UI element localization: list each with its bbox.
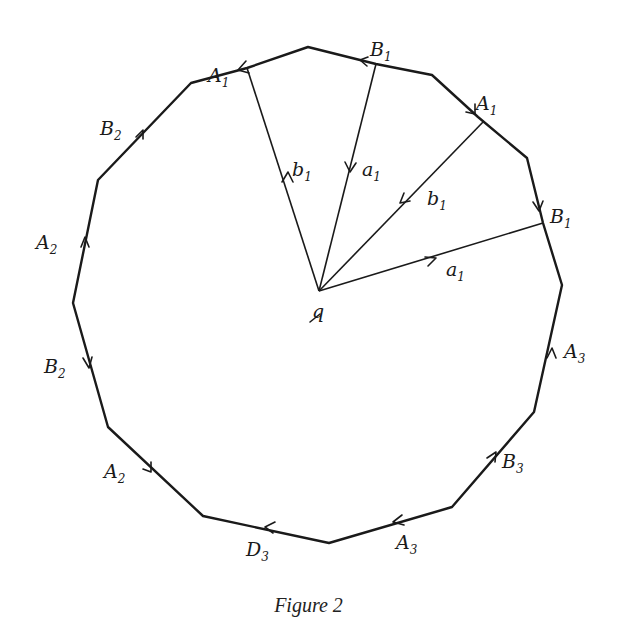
svg-text:A3: A3 bbox=[394, 531, 418, 557]
svg-text:B1: B1 bbox=[369, 38, 392, 64]
svg-text:B1: B1 bbox=[549, 205, 572, 231]
edge-label-A3-bottom: A3 bbox=[394, 531, 418, 557]
svg-text:A2: A2 bbox=[102, 460, 125, 486]
ray-label-a1-right: a1 bbox=[446, 258, 465, 284]
edge-label-B3: B3 bbox=[501, 450, 524, 476]
ray-label-b1-left: b1 bbox=[292, 158, 312, 184]
ray-label-a1-top: a1 bbox=[362, 158, 381, 184]
edge-label-D3: D3 bbox=[245, 538, 269, 564]
svg-text:B3: B3 bbox=[501, 450, 524, 476]
figure-caption: Figure 2 bbox=[0, 594, 617, 617]
svg-text:A3: A3 bbox=[562, 340, 586, 366]
svg-text:A1: A1 bbox=[474, 92, 497, 118]
edge-label-B1-right: B1 bbox=[549, 205, 572, 231]
svg-text:A1: A1 bbox=[206, 64, 229, 90]
svg-text:B2: B2 bbox=[43, 355, 66, 381]
svg-text:B2: B2 bbox=[99, 117, 122, 143]
edge-label-B2-upper: B2 bbox=[99, 117, 122, 143]
polygon-boundary bbox=[73, 47, 562, 543]
edge-label-A1-topleft: A1 bbox=[206, 64, 229, 90]
edge-label-A2-upper: A2 bbox=[34, 231, 57, 257]
edge-label-A3-right: A3 bbox=[562, 340, 586, 366]
svg-text:a1: a1 bbox=[362, 158, 381, 184]
ray-label-b1-right: b1 bbox=[427, 187, 447, 213]
svg-text:D3: D3 bbox=[245, 538, 269, 564]
svg-text:a1: a1 bbox=[446, 258, 465, 284]
edge-label-A2-lower: A2 bbox=[102, 460, 125, 486]
edge-label-B1-top: B1 bbox=[369, 38, 392, 64]
svg-text:b1: b1 bbox=[427, 187, 447, 213]
svg-text:b1: b1 bbox=[292, 158, 312, 184]
svg-text:A2: A2 bbox=[34, 231, 57, 257]
edge-label-A1-right: A1 bbox=[474, 92, 497, 118]
edge-label-B2-lower: B2 bbox=[43, 355, 66, 381]
diagram-canvas: A1 B1 A1 B1 B2 A2 B2 A2 A3 B3 D3 A3 b1 a… bbox=[0, 0, 617, 630]
